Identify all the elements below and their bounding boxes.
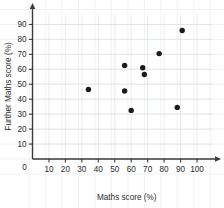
y-tick-label: 70	[17, 50, 27, 59]
y-axis-ticks: 102030405060708090	[17, 20, 32, 149]
x-tick-label: 20	[61, 165, 71, 174]
chart-canvas: 102030405060708090100 102030405060708090…	[0, 0, 224, 208]
y-gridlines	[33, 24, 214, 144]
data-point	[122, 88, 127, 93]
background-grid	[0, 0, 224, 208]
x-axis-title: Maths score (%)	[97, 193, 157, 202]
y-tick-label: 60	[17, 65, 27, 74]
y-tick-label: 90	[17, 20, 27, 29]
axes	[30, 3, 221, 162]
x-tick-label: 90	[176, 165, 186, 174]
x-tick-label: 40	[94, 165, 104, 174]
x-tick-label: 60	[127, 165, 137, 174]
y-tick-label: 40	[17, 95, 27, 104]
x-tick-label: 10	[44, 165, 54, 174]
data-point	[156, 51, 161, 56]
x-tick-label: 70	[143, 165, 153, 174]
x-tick-label: 80	[160, 165, 170, 174]
x-axis-arrow	[215, 156, 221, 162]
x-tick-label: 30	[77, 165, 87, 174]
x-tick-label: 100	[190, 165, 204, 174]
scatter-chart: 102030405060708090100 102030405060708090…	[0, 0, 224, 208]
data-point	[179, 28, 184, 33]
data-point	[122, 63, 127, 68]
data-points-layer	[86, 28, 185, 113]
y-tick-label: 20	[17, 125, 27, 134]
data-point	[175, 105, 180, 110]
data-point	[140, 65, 145, 70]
y-axis-title: Further Maths score (%)	[4, 42, 13, 131]
x-gridlines	[49, 14, 197, 159]
x-tick-label: 50	[110, 165, 120, 174]
y-tick-label: 30	[17, 110, 27, 119]
y-axis-arrow	[30, 3, 36, 9]
data-point	[142, 72, 147, 77]
x-axis-ticks: 102030405060708090100	[44, 159, 204, 174]
data-point	[129, 108, 134, 113]
y-tick-label: 10	[17, 140, 27, 149]
data-point	[86, 87, 91, 92]
y-tick-label: 80	[17, 35, 27, 44]
origin-tick-label: 0	[22, 163, 27, 172]
y-tick-label: 50	[17, 80, 27, 89]
